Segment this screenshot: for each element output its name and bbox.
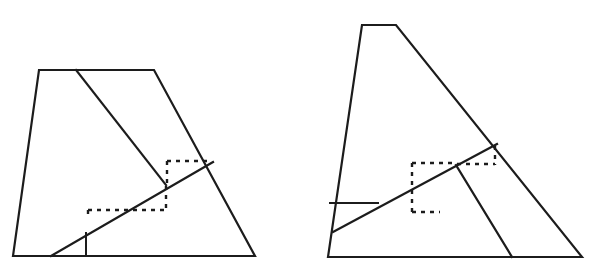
right-trapezoid-outline: [328, 25, 582, 257]
right-shallow-diagonal: [333, 144, 497, 232]
left-steep-diagonal: [76, 70, 166, 185]
left-figure: [13, 70, 255, 256]
diagram-canvas: [0, 0, 593, 274]
left-shallow-diagonal: [51, 162, 213, 256]
left-trapezoid-outline: [13, 70, 255, 256]
figure-board: [0, 0, 593, 274]
right-descending-cevian: [456, 165, 512, 257]
right-figure: [328, 25, 582, 257]
